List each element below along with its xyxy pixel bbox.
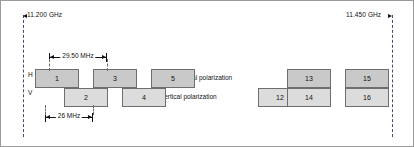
arrow-right-icon [388,14,392,18]
dimension-tick [45,105,46,115]
arrow-left-icon [46,115,50,119]
dimension-channel-spacing: 29.50 MHz [49,53,107,62]
channel-box-14: 14 [287,88,331,107]
channel-label: 14 [305,94,313,101]
band-edge-label-left: 11.200 GHz [27,11,62,18]
dimension-tick [107,59,108,71]
channel-box-2: 2 [64,88,108,107]
channel-box-13: 13 [287,69,331,88]
caption-vertical-polarization: vertical polarization [161,93,217,100]
channel-box-15: 15 [345,69,389,88]
channel-label: 3 [113,75,117,82]
channel-label: 13 [305,75,313,82]
axis-label-vertical-left: V [28,89,32,96]
dimension-label-channel-bandwidth: 26 MHz [56,112,82,119]
arrow-right-icon [102,55,106,59]
axis-label-horizontal-left: H [28,71,33,78]
channel-label: 15 [363,75,371,82]
channel-label: 5 [171,75,175,82]
dimension-tick [49,59,50,71]
channel-box-4: 4 [122,88,166,107]
band-edge-guide-right [392,15,393,137]
arrow-left-icon [50,55,54,59]
channel-box-3: 3 [93,69,137,88]
channel-label: 16 [363,94,371,101]
channel-label: 2 [84,94,88,101]
channel-box-1: 1 [35,69,79,88]
band-edge-label-right: 11.450 GHz [346,11,381,18]
dimension-channel-bandwidth: 26 MHz [45,113,93,122]
channel-box-5: 5 [151,69,195,88]
channel-label: 1 [55,75,59,82]
dimension-label-channel-spacing: 29.50 MHz [60,52,95,59]
transponder-frequency-plan-diagram: 11.200 GHz 11.450 GHz H V H V horizontal… [0,0,414,147]
dimension-tick [93,105,94,115]
arrow-right-icon [88,115,92,119]
band-edge-guide-left [23,15,24,137]
channel-label: 4 [142,94,146,101]
channel-label: 12 [276,94,284,101]
channel-box-16: 16 [345,88,389,107]
